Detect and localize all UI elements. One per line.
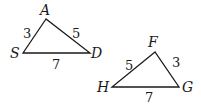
side-length-hg: 7 <box>145 90 153 105</box>
vertex-label-s: S <box>10 45 20 61</box>
side-length-as: 3 <box>23 26 31 41</box>
triangle-fhg: F H G 5 3 7 <box>96 34 193 105</box>
side-length-ad: 5 <box>72 26 80 41</box>
side-length-fh: 5 <box>125 58 133 73</box>
triangle-fhg-shape <box>112 52 179 87</box>
side-length-sd: 7 <box>52 57 60 72</box>
vertex-label-h: H <box>96 79 110 95</box>
side-length-fg: 3 <box>172 55 180 70</box>
vertex-label-g: G <box>182 79 193 95</box>
triangles-diagram: A S D 3 5 7 F H G 5 3 7 <box>0 0 201 105</box>
vertex-label-f: F <box>147 34 159 50</box>
vertex-label-d: D <box>90 45 102 61</box>
triangle-asd: A S D 3 5 7 <box>10 2 102 72</box>
vertex-label-a: A <box>38 2 50 18</box>
